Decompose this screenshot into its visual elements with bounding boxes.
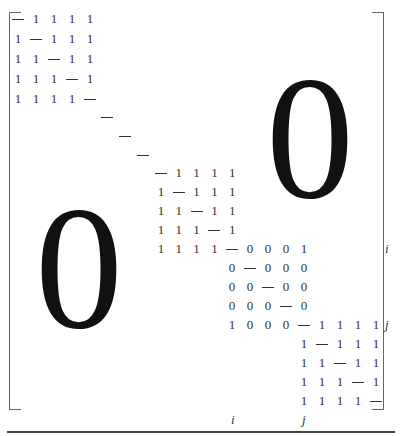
matrix-entry: 1	[225, 203, 239, 219]
matrix-entry: 1	[351, 355, 365, 371]
matrix-entry: 0	[243, 241, 257, 257]
diagonal-dash	[280, 306, 292, 307]
matrix-entry: 1	[11, 31, 25, 47]
matrix-entry: 1	[315, 374, 329, 390]
matrix-entry: 1	[315, 317, 329, 333]
matrix-entry: 1	[65, 31, 79, 47]
matrix-entry: 1	[297, 393, 311, 409]
diagonal-dash	[352, 382, 364, 383]
row-index-label: j	[385, 317, 389, 333]
matrix-entry: 1	[172, 241, 186, 257]
matrix-entry: 1	[315, 393, 329, 409]
row-index-label: i	[385, 241, 389, 257]
col-index-label: i	[231, 412, 235, 428]
matrix-entry: 1	[154, 241, 168, 257]
matrix-entry: 1	[297, 336, 311, 352]
matrix-entry: 1	[47, 91, 61, 107]
matrix-entry: 1	[369, 355, 383, 371]
matrix-entry: 1	[47, 31, 61, 47]
matrix-entry: 0	[279, 241, 293, 257]
matrix-entry: 1	[369, 336, 383, 352]
diagonal-dash	[191, 211, 203, 212]
diagonal-dash	[30, 39, 42, 40]
matrix-entry: 1	[29, 71, 43, 87]
matrix-entry: 1	[11, 71, 25, 87]
matrix-entry: 1	[207, 241, 221, 257]
matrix-entry: 1	[65, 91, 79, 107]
matrix-entry: 1	[351, 317, 365, 333]
diagonal-dash	[316, 344, 328, 345]
matrix-entry: 1	[225, 165, 239, 181]
matrix-entry: 0	[297, 279, 311, 295]
lower-zero-block: 0	[35, 180, 123, 356]
matrix-entry: 1	[154, 203, 168, 219]
matrix-entry: 1	[207, 203, 221, 219]
matrix-entry: 0	[297, 260, 311, 276]
matrix-entry: 1	[351, 336, 365, 352]
diagonal-dash	[119, 136, 131, 137]
matrix-entry: 1	[351, 393, 365, 409]
diagonal-dash	[208, 230, 220, 231]
matrix-entry: 1	[190, 241, 204, 257]
matrix-entry: 1	[154, 222, 168, 238]
matrix-entry: 1	[225, 184, 239, 200]
matrix-entry: 1	[333, 317, 347, 333]
matrix-entry: 0	[261, 260, 275, 276]
matrix-entry: 1	[11, 91, 25, 107]
matrix-entry: 0	[297, 298, 311, 314]
matrix-entry: 1	[29, 51, 43, 67]
right-bracket-bottom-tick	[372, 409, 383, 410]
matrix-entry: 0	[261, 241, 275, 257]
matrix-entry: 0	[279, 279, 293, 295]
matrix-entry: 0	[243, 317, 257, 333]
left-bracket-top-tick	[10, 12, 21, 13]
matrix-entry: 0	[261, 298, 275, 314]
matrix-entry: 1	[207, 165, 221, 181]
diagonal-dash	[334, 363, 346, 364]
matrix-entry: 1	[83, 71, 97, 87]
diagonal-dash	[298, 325, 310, 326]
matrix-entry: 1	[83, 51, 97, 67]
diagonal-dash	[173, 192, 185, 193]
matrix-entry: 1	[65, 11, 79, 27]
matrix-entry: 1	[225, 222, 239, 238]
right-bracket-top-tick	[372, 12, 383, 13]
col-index-label: j	[302, 412, 306, 428]
bottom-rule	[7, 431, 395, 433]
matrix-entry: 0	[261, 317, 275, 333]
matrix-entry: 1	[47, 71, 61, 87]
matrix-entry: 1	[29, 11, 43, 27]
matrix-entry: 1	[154, 184, 168, 200]
matrix-entry: 0	[243, 298, 257, 314]
matrix-entry: 1	[172, 203, 186, 219]
diagonal-dash	[262, 287, 274, 288]
matrix-entry: 0	[279, 317, 293, 333]
matrix-entry: 0	[243, 279, 257, 295]
matrix-entry: 1	[333, 336, 347, 352]
matrix-entry: 1	[333, 393, 347, 409]
matrix-entry: 1	[190, 165, 204, 181]
matrix-entry: 1	[297, 355, 311, 371]
matrix-entry: 1	[333, 374, 347, 390]
matrix-entry: 1	[315, 355, 329, 371]
matrix-entry: 1	[225, 317, 239, 333]
matrix-entry: 1	[83, 31, 97, 47]
matrix-entry: 1	[47, 11, 61, 27]
matrix-entry: 1	[369, 374, 383, 390]
matrix-entry: 1	[207, 184, 221, 200]
diagonal-dash	[48, 59, 60, 60]
matrix-entry: 1	[83, 11, 97, 27]
matrix-entry: 1	[29, 91, 43, 107]
matrix-entry: 1	[297, 241, 311, 257]
matrix-entry: 1	[172, 222, 186, 238]
matrix-entry: 1	[190, 222, 204, 238]
matrix-entry: 1	[65, 51, 79, 67]
diagonal-dash	[12, 19, 24, 20]
diagonal-dash	[244, 268, 256, 269]
diagonal-dash	[66, 79, 78, 80]
matrix-entry: 0	[279, 260, 293, 276]
matrix-entry: 1	[297, 374, 311, 390]
matrix-entry: 1	[172, 165, 186, 181]
diagonal-dash	[370, 401, 382, 402]
diagonal-dash	[137, 155, 149, 156]
